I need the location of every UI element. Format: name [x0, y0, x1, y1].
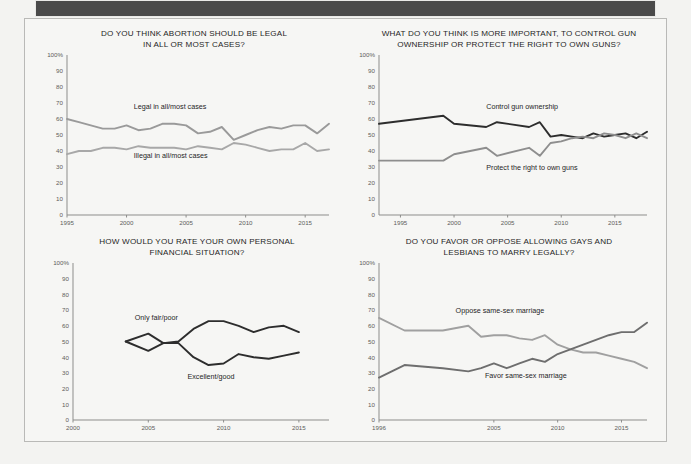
chart-panel-finances: HOW WOULD YOU RATE YOUR OWN PERSONAL FIN…	[35, 233, 346, 436]
plot-guns: 100%908070605040302010019952000200520102…	[347, 25, 658, 231]
y-tick-label: 90	[368, 275, 375, 282]
series-label: Favor same-sex marriage	[485, 371, 567, 380]
y-tick-label: 40	[62, 354, 69, 361]
axis-lines	[73, 263, 329, 420]
x-tick-label: 1995	[394, 219, 408, 226]
y-tick-label: 40	[368, 354, 375, 361]
y-tick-label: 30	[56, 163, 63, 170]
y-tick-label: 70	[368, 306, 375, 313]
series-label: Excellent/good	[187, 372, 234, 381]
y-tick-label: 0	[66, 416, 70, 423]
x-tick-label: 2000	[66, 424, 80, 431]
series-label: Legal in all/most cases	[134, 102, 207, 111]
top-banner	[35, 0, 656, 17]
y-tick-label: 100%	[53, 259, 69, 266]
y-tick-label: 10	[62, 401, 69, 408]
chart-title-finances: HOW WOULD YOU RATE YOUR OWN PERSONAL FIN…	[55, 237, 339, 258]
y-tick-label: 90	[368, 67, 375, 74]
y-tick-label: 50	[62, 338, 69, 345]
y-tick-label: 40	[368, 147, 375, 154]
y-tick-label: 0	[60, 211, 64, 218]
chart-panel-guns: WHAT DO YOU THINK IS MORE IMPORTANT, TO …	[347, 25, 658, 231]
chart-frame: DO YOU THINK ABORTION SHOULD BE LEGAL IN…	[24, 18, 667, 442]
y-tick-label: 50	[56, 131, 63, 138]
x-tick-label: 2000	[120, 219, 134, 226]
series-line	[126, 342, 299, 366]
plot-abortion: 100%908070605040302010019952000200520102…	[35, 25, 346, 231]
plot-finances: 100%90807060504030201002000200520102015O…	[35, 233, 346, 436]
y-tick-label: 90	[56, 67, 63, 74]
y-tick-label: 50	[368, 338, 375, 345]
series-label: Control gun ownership	[486, 102, 558, 111]
y-tick-label: 50	[368, 131, 375, 138]
y-tick-label: 20	[368, 385, 375, 392]
y-tick-label: 30	[368, 163, 375, 170]
series-label: Protect the right to own guns	[486, 163, 578, 172]
y-tick-label: 60	[368, 322, 375, 329]
series-label: Oppose same-sex marriage	[456, 306, 545, 315]
y-tick-label: 80	[368, 291, 375, 298]
y-tick-label: 80	[56, 83, 63, 90]
chart-panel-abortion: DO YOU THINK ABORTION SHOULD BE LEGAL IN…	[35, 25, 346, 231]
y-tick-label: 10	[368, 401, 375, 408]
y-tick-label: 10	[56, 195, 63, 202]
y-tick-label: 70	[368, 99, 375, 106]
x-tick-label: 2010	[239, 219, 253, 226]
y-tick-label: 0	[372, 211, 376, 218]
plot-marriage: 100%90807060504030201001996200520102015O…	[347, 233, 658, 436]
y-tick-label: 30	[62, 369, 69, 376]
chart-title-abortion: DO YOU THINK ABORTION SHOULD BE LEGAL IN…	[49, 29, 339, 50]
y-tick-label: 70	[56, 99, 63, 106]
y-tick-label: 20	[56, 179, 63, 186]
series-line	[379, 133, 647, 160]
axis-lines	[67, 55, 329, 215]
y-tick-label: 70	[62, 306, 69, 313]
y-tick-label: 30	[368, 369, 375, 376]
y-tick-label: 100%	[47, 51, 63, 58]
y-tick-label: 20	[62, 385, 69, 392]
y-tick-label: 90	[62, 275, 69, 282]
x-tick-label: 2000	[447, 219, 461, 226]
y-tick-label: 0	[372, 416, 376, 423]
x-tick-label: 2015	[615, 424, 629, 431]
chart-title-marriage: DO YOU FAVOR OR OPPOSE ALLOWING GAYS AND…	[361, 237, 657, 258]
series-label: Only fair/poor	[135, 313, 179, 322]
y-tick-label: 20	[368, 179, 375, 186]
y-tick-label: 100%	[359, 51, 375, 58]
axis-lines	[379, 263, 647, 420]
x-tick-label: 2015	[608, 219, 622, 226]
y-tick-label: 60	[62, 322, 69, 329]
series-label: Illegal in all/most cases	[134, 151, 208, 160]
series-line	[379, 116, 647, 138]
series-line	[67, 119, 329, 140]
chart-title-guns: WHAT DO YOU THINK IS MORE IMPORTANT, TO …	[361, 29, 657, 50]
x-tick-label: 2015	[292, 424, 306, 431]
x-tick-label: 2005	[179, 219, 193, 226]
x-tick-label: 2010	[554, 219, 568, 226]
y-tick-label: 40	[56, 147, 63, 154]
series-line	[126, 321, 299, 343]
y-tick-label: 100%	[359, 259, 375, 266]
y-tick-label: 10	[368, 195, 375, 202]
x-tick-label: 1996	[372, 424, 386, 431]
y-tick-label: 80	[368, 83, 375, 90]
x-tick-label: 2015	[298, 219, 312, 226]
y-tick-label: 60	[368, 115, 375, 122]
chart-grid: DO YOU THINK ABORTION SHOULD BE LEGAL IN…	[25, 19, 666, 441]
series-line	[379, 318, 647, 368]
x-tick-label: 2010	[551, 424, 565, 431]
axis-lines	[379, 55, 647, 215]
y-tick-label: 60	[56, 115, 63, 122]
x-tick-label: 2005	[141, 424, 155, 431]
x-tick-label: 2005	[487, 424, 501, 431]
x-tick-label: 1995	[60, 219, 74, 226]
x-tick-label: 2010	[217, 424, 231, 431]
chart-panel-marriage: DO YOU FAVOR OR OPPOSE ALLOWING GAYS AND…	[347, 233, 658, 436]
ghost-bleed-text	[30, 446, 460, 458]
x-tick-label: 2005	[501, 219, 515, 226]
y-tick-label: 80	[62, 291, 69, 298]
